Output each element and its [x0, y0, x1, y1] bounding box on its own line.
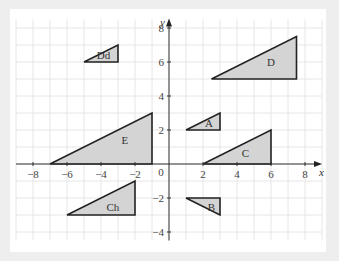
triangles: DdDAECChB	[50, 37, 297, 216]
y-axis-label: y	[159, 16, 165, 28]
triangle-label: B	[208, 201, 215, 213]
x-tick-label: 4	[234, 168, 240, 180]
origin-label: 0	[158, 166, 164, 178]
y-axis-arrow-icon	[166, 19, 172, 27]
triangle-label: D	[267, 56, 275, 68]
y-tick-label: 6	[159, 56, 165, 68]
x-tick-label: 6	[268, 168, 274, 180]
x-tick-label: −2	[129, 168, 141, 180]
y-tick-label: 4	[159, 90, 165, 102]
triangle-label: E	[121, 134, 128, 146]
y-tick-label: 2	[159, 124, 165, 136]
triangle-label: A	[205, 117, 213, 129]
triangle-label: Ch	[106, 201, 119, 213]
x-tick-label: −8	[27, 168, 39, 180]
diagram-panel: DdDAECChB −8−6−4−224688642−2−4 x y 0	[10, 9, 326, 252]
triangle-label: C	[242, 147, 249, 159]
x-tick-label: −6	[61, 168, 73, 180]
y-tick-label: −4	[152, 226, 164, 238]
y-tick-label: −2	[152, 192, 164, 204]
x-axis-label: x	[318, 166, 324, 178]
x-tick-label: 2	[200, 168, 206, 180]
coordinate-plane: DdDAECChB −8−6−4−224688642−2−4 x y 0	[10, 9, 326, 252]
x-tick-label: −4	[95, 168, 107, 180]
triangle-label: Dd	[97, 49, 111, 61]
x-tick-label: 8	[302, 168, 308, 180]
